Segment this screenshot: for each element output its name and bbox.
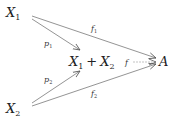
arrow-p1: [32, 19, 80, 50]
label-p2: p2: [44, 75, 52, 85]
node-sum: X1+X2: [68, 54, 115, 71]
commutative-diagram: X1 X2 X1+X2 A p1 p2 f1 f2 f: [0, 0, 176, 125]
label-f1: f1: [90, 24, 97, 34]
label-f2: f2: [90, 89, 97, 99]
arrow-f1: [32, 16, 156, 58]
node-x2: X2: [5, 101, 20, 118]
label-p1: p1: [44, 39, 52, 49]
label-f: f: [124, 58, 130, 67]
node-x1: X1: [5, 5, 20, 22]
arrow-f2: [32, 64, 156, 106]
node-a: A: [158, 54, 168, 69]
